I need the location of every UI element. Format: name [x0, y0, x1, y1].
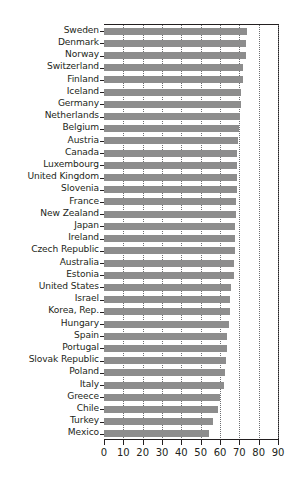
bar-row: [104, 171, 278, 183]
category-label: Denmark: [0, 38, 99, 47]
value-tick-label: 50: [194, 447, 207, 459]
bar: [104, 382, 224, 389]
category-label: Chile: [0, 404, 99, 413]
category-label: Switzerland: [0, 62, 99, 71]
category-label: Turkey: [0, 416, 99, 425]
category-tick: [100, 56, 104, 57]
bar-row: [104, 416, 278, 428]
category-label: Slovak Republic: [0, 355, 99, 364]
category-tick: [100, 348, 104, 349]
category-label: Iceland: [0, 87, 99, 96]
bar-row: [104, 306, 278, 318]
category-label: Israel: [0, 294, 99, 303]
category-label: Slovenia: [0, 184, 99, 193]
value-axis-line: [104, 439, 279, 440]
category-label: Japan: [0, 221, 99, 230]
category-tick: [100, 263, 104, 264]
bar-chart-figure: SwedenDenmarkNorwaySwitzerlandFinlandIce…: [0, 0, 303, 493]
bar: [104, 284, 231, 291]
category-tick: [100, 68, 104, 69]
category-label: Poland: [0, 367, 99, 376]
bar: [104, 406, 218, 413]
category-tick: [100, 251, 104, 252]
category-tick: [100, 31, 104, 32]
bar-row: [104, 318, 278, 330]
bar-row: [104, 269, 278, 281]
bar: [104, 198, 236, 205]
bar-row: [104, 196, 278, 208]
category-label: Italy: [0, 380, 99, 389]
value-tick-label: 60: [214, 447, 227, 459]
category-tick: [100, 43, 104, 44]
category-tick: [100, 324, 104, 325]
bar: [104, 211, 236, 218]
bar: [104, 369, 225, 376]
bar: [104, 40, 246, 47]
category-tick: [100, 178, 104, 179]
bar: [104, 260, 234, 267]
category-label: United States: [0, 282, 99, 291]
bar-row: [104, 233, 278, 245]
value-tick-60: [220, 440, 221, 445]
bar: [104, 394, 220, 401]
value-tick-50: [201, 440, 202, 445]
bar-row: [104, 25, 278, 37]
category-tick: [100, 287, 104, 288]
bar: [104, 76, 243, 83]
value-tick-label: 10: [117, 447, 130, 459]
category-label: France: [0, 197, 99, 206]
bar: [104, 137, 238, 144]
bar: [104, 223, 235, 230]
bar-row: [104, 220, 278, 232]
bar-row: [104, 123, 278, 135]
category-label: Estonia: [0, 270, 99, 279]
bar-row: [104, 379, 278, 391]
bar-row: [104, 62, 278, 74]
category-label: Greece: [0, 392, 99, 401]
category-label: Spain: [0, 331, 99, 340]
bar-row: [104, 184, 278, 196]
bar: [104, 52, 246, 59]
category-tick: [100, 129, 104, 130]
bar-row: [104, 49, 278, 61]
category-tick: [100, 422, 104, 423]
category-label: Norway: [0, 50, 99, 59]
bar-row: [104, 330, 278, 342]
bar-row: [104, 110, 278, 122]
bar: [104, 150, 237, 157]
bar: [104, 247, 235, 254]
category-label: Ireland: [0, 233, 99, 242]
bar-row: [104, 74, 278, 86]
category-tick: [100, 202, 104, 203]
bar-row: [104, 281, 278, 293]
category-tick: [100, 214, 104, 215]
category-label: Mexico: [0, 428, 99, 437]
category-label: Austria: [0, 136, 99, 145]
value-tick-80: [259, 440, 260, 445]
bar-row: [104, 86, 278, 98]
category-tick: [100, 153, 104, 154]
category-tick: [100, 104, 104, 105]
value-tick-label: 90: [272, 447, 285, 459]
category-tick: [100, 92, 104, 93]
value-tick-label: 30: [156, 447, 169, 459]
bar: [104, 235, 235, 242]
bar-row: [104, 245, 278, 257]
category-label: Canada: [0, 148, 99, 157]
category-tick: [100, 397, 104, 398]
bar-row: [104, 367, 278, 379]
category-tick: [100, 190, 104, 191]
bar: [104, 345, 227, 352]
value-tick-label: 40: [175, 447, 188, 459]
category-tick: [100, 300, 104, 301]
value-tick-20: [143, 440, 144, 445]
value-tick-10: [123, 440, 124, 445]
bar: [104, 333, 227, 340]
bar-row: [104, 342, 278, 354]
bar-row: [104, 257, 278, 269]
category-tick: [100, 275, 104, 276]
value-tick-90: [278, 440, 279, 445]
bar: [104, 113, 240, 120]
bar: [104, 418, 213, 425]
category-label: Australia: [0, 258, 99, 267]
